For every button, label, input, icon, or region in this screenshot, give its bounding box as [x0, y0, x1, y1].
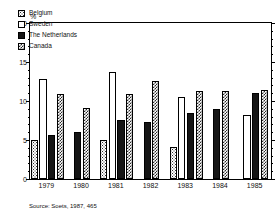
bar-canada-1983 [196, 91, 203, 179]
x-tick-label-1980: 1980 [73, 182, 89, 189]
legend-label: The Netherlands [29, 32, 77, 39]
bar-group-1984 [204, 23, 239, 179]
y-tick-mark-right [271, 179, 275, 180]
legend-item-canada: Canada [18, 41, 77, 51]
bar-the-netherlands-1985 [252, 93, 259, 179]
legend-item-sweden: Sweden [18, 19, 77, 29]
bar-belgium-1981 [100, 140, 107, 179]
bar-the-netherlands-1980 [74, 132, 81, 179]
bar-sweden-1979 [39, 79, 46, 179]
y-tick-label: 5 [23, 137, 27, 144]
y-tick-label: 0 [23, 176, 27, 183]
bar-group-1985 [238, 23, 273, 179]
bar-sweden-1981 [109, 72, 116, 179]
bar-the-netherlands-1979 [48, 135, 55, 179]
y-tick-label: 10 [19, 98, 27, 105]
chart-figure: % 05101520 BelgiumSwedenThe NetherlandsC… [0, 0, 277, 220]
bar-canada-1980 [83, 108, 90, 179]
bar-canada-1982 [152, 81, 159, 179]
legend-swatch-icon [18, 32, 25, 39]
legend-item-the-netherlands: The Netherlands [18, 30, 77, 40]
y-tick-label: 15 [19, 59, 27, 66]
legend-label: Belgium [29, 10, 52, 17]
bar-belgium-1979 [31, 140, 38, 179]
bar-group-1983 [169, 23, 204, 179]
bar-canada-1981 [126, 94, 133, 179]
source-note: Source: Soets, 1987, 465 [29, 203, 97, 209]
bar-the-netherlands-1981 [117, 120, 124, 179]
chart-legend: BelgiumSwedenThe NetherlandsCanada [18, 8, 77, 52]
x-tick-label-1982: 1982 [143, 182, 159, 189]
legend-item-belgium: Belgium [18, 8, 77, 18]
x-tick-label-1981: 1981 [108, 182, 124, 189]
bar-the-netherlands-1984 [213, 109, 220, 179]
legend-swatch-icon [18, 43, 25, 50]
bar-the-netherlands-1983 [187, 113, 194, 179]
bar-group-1982 [134, 23, 169, 179]
bar-belgium-1983 [170, 147, 177, 179]
legend-swatch-icon [18, 21, 25, 28]
bar-canada-1985 [261, 90, 268, 179]
x-tick-label-1985: 1985 [247, 182, 263, 189]
bar-the-netherlands-1982 [144, 122, 151, 179]
x-tick-label-1979: 1979 [39, 182, 55, 189]
bar-group-1981 [99, 23, 134, 179]
legend-label: Canada [29, 43, 52, 50]
bar-canada-1979 [57, 94, 64, 179]
bar-canada-1984 [222, 91, 229, 179]
x-tick-label-1984: 1984 [212, 182, 228, 189]
legend-swatch-icon [18, 10, 25, 17]
bar-sweden-1985 [243, 115, 250, 179]
x-tick-label-1983: 1983 [177, 182, 193, 189]
legend-label: Sweden [29, 21, 53, 28]
bar-sweden-1983 [178, 97, 185, 179]
